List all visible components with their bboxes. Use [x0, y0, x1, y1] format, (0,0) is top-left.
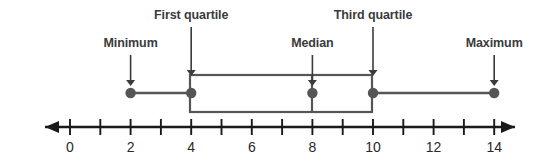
callout-label-third-quartile: Third quartile — [334, 8, 412, 22]
callout-label-first-quartile: First quartile — [154, 8, 228, 22]
axis-tick-label: 2 — [127, 139, 135, 155]
axis-tick-label: 0 — [66, 139, 74, 155]
callout-arrowhead-median — [308, 80, 317, 86]
box-plot-graphic — [0, 0, 534, 166]
number-line-axis — [45, 119, 515, 135]
data-point-dot — [489, 88, 499, 98]
axis-tick-label: 12 — [426, 139, 442, 155]
data-point-dot — [186, 88, 196, 98]
data-point-dot — [368, 88, 378, 98]
callout-arrowhead-minimum — [126, 80, 135, 86]
axis-right-arrowhead — [501, 121, 515, 133]
axis-tick-label: 8 — [308, 139, 316, 155]
data-point-dot — [307, 88, 317, 98]
callout-arrowhead-maximum — [490, 80, 499, 86]
box-plot-figure: MinimumFirst quartileMedianThird quartil… — [0, 0, 534, 166]
data-point-dot — [125, 88, 135, 98]
axis-tick-label: 14 — [486, 139, 502, 155]
callout-label-maximum: Maximum — [466, 36, 523, 50]
callout-label-minimum: Minimum — [104, 36, 158, 50]
axis-left-arrowhead — [45, 121, 59, 133]
axis-tick-label: 10 — [365, 139, 381, 155]
callout-label-median: Median — [291, 36, 333, 50]
axis-tick-label: 6 — [248, 139, 256, 155]
quartile-box — [190, 75, 372, 112]
axis-tick-label: 4 — [187, 139, 195, 155]
